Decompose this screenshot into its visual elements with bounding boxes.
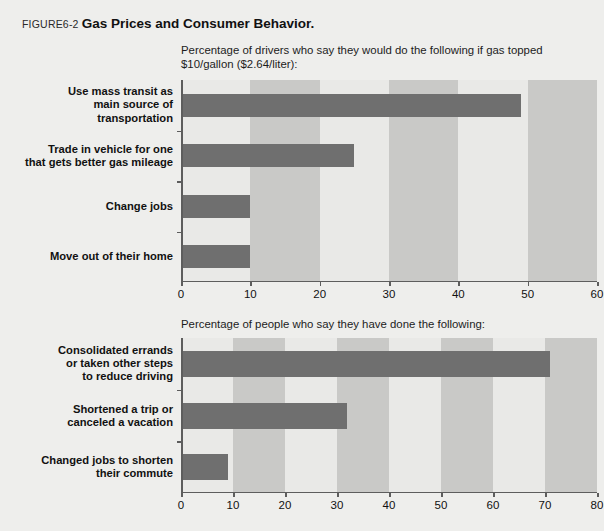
chart-1-plot-area — [181, 80, 597, 282]
x-axis-tick — [285, 493, 287, 497]
category-label: Change jobs — [23, 200, 173, 213]
x-axis-tick-label: 0 — [178, 499, 184, 511]
bar — [181, 454, 228, 480]
bar — [181, 245, 250, 268]
x-axis-tick-label: 30 — [331, 499, 344, 511]
x-axis-tick-label: 50 — [435, 499, 448, 511]
category-label: Changed jobs to shorten their commute — [23, 454, 173, 480]
x-axis-tick-label: 10 — [227, 499, 240, 511]
x-axis-tick-label: 60 — [487, 499, 500, 511]
x-axis-tick-label: 20 — [279, 499, 292, 511]
chart-2-subtitle: Percentage of people who say they have d… — [181, 318, 591, 332]
x-axis-tick-label: 30 — [383, 288, 396, 300]
chart-1-subtitle: Percentage of drivers who say they would… — [181, 44, 591, 71]
x-axis-tick — [597, 282, 599, 286]
y-axis-tick — [177, 441, 182, 443]
x-axis-tick — [337, 493, 339, 497]
x-axis-tick — [493, 493, 495, 497]
background-band — [545, 338, 597, 493]
x-axis-tick — [458, 282, 460, 286]
chart-panel-1: Percentage of drivers who say they would… — [0, 38, 604, 300]
bar — [181, 351, 550, 377]
x-axis-tick — [181, 493, 183, 497]
y-axis-tick — [177, 181, 182, 183]
y-axis-tick — [177, 232, 182, 234]
x-axis-tick-label: 40 — [452, 288, 465, 300]
chart-2-y-axis-line — [181, 338, 183, 493]
x-axis-tick — [528, 282, 530, 286]
x-axis-tick-label: 50 — [521, 288, 534, 300]
x-axis-tick-label: 60 — [591, 288, 604, 300]
x-axis-tick — [545, 493, 547, 497]
category-label: Consolidated errands or taken other step… — [23, 344, 173, 384]
x-axis-tick-label: 80 — [591, 499, 604, 511]
bar — [181, 403, 347, 429]
category-label: Trade in vehicle for one that gets bette… — [23, 143, 173, 169]
chart-2-plot-area — [181, 338, 597, 493]
figure-title: FIGURE6-2Gas Prices and Consumer Behavio… — [22, 14, 314, 32]
y-axis-tick — [177, 390, 182, 392]
category-label: Move out of their home — [23, 250, 173, 263]
x-axis-tick — [250, 282, 252, 286]
category-label: Shortened a trip or canceled a vacation — [23, 403, 173, 429]
bar — [181, 195, 250, 218]
x-axis-tick-label: 10 — [244, 288, 257, 300]
x-axis-tick-label: 70 — [539, 499, 552, 511]
y-axis-tick — [177, 131, 182, 133]
x-axis-tick — [389, 493, 391, 497]
x-axis-tick — [181, 282, 183, 286]
figure-container: FIGURE6-2Gas Prices and Consumer Behavio… — [0, 0, 604, 531]
bar — [181, 94, 521, 117]
figure-caption: Gas Prices and Consumer Behavior. — [82, 16, 315, 31]
figure-number: FIGURE6-2 — [22, 18, 79, 30]
x-axis-tick — [233, 493, 235, 497]
x-axis-tick — [389, 282, 391, 286]
chart-panel-2: Percentage of people who say they have d… — [0, 316, 604, 531]
x-axis-tick — [441, 493, 443, 497]
background-band — [528, 80, 597, 282]
x-axis-tick — [597, 493, 599, 497]
x-axis-tick-label: 40 — [383, 499, 396, 511]
bar — [181, 144, 354, 167]
x-axis-tick-label: 20 — [313, 288, 326, 300]
category-label: Use mass transit as main source of trans… — [23, 85, 173, 125]
x-axis-tick — [320, 282, 322, 286]
x-axis-tick-label: 0 — [178, 288, 184, 300]
